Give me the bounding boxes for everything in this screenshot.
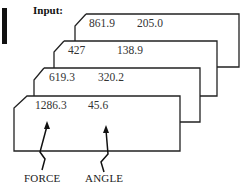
- card-2-force-value: 427: [68, 44, 85, 56]
- card-3-force-value: 619.3: [49, 71, 75, 83]
- card-1-angle-value: 205.0: [137, 17, 163, 29]
- card-3-angle-value: 320.2: [98, 71, 124, 83]
- force-label: FORCE: [24, 172, 60, 184]
- angle-label: ANGLE: [85, 172, 123, 184]
- card-4-force-value: 1286.3: [35, 99, 67, 111]
- card-4-angle-value: 45.6: [88, 99, 108, 111]
- punch-cards-diagram: [0, 0, 244, 188]
- card-2-angle-value: 138.9: [117, 44, 143, 56]
- card-1-force-value: 861.9: [89, 17, 115, 29]
